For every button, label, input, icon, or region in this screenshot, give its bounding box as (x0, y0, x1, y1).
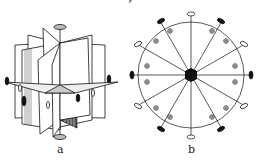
stereographic-projection (129, 0, 258, 161)
symmetry-planes-drawing (0, 0, 129, 161)
figure-b: b (129, 0, 258, 161)
figure-a: a (0, 0, 129, 161)
figure-a-label: a (57, 143, 64, 156)
figure-b-label: b (188, 143, 195, 156)
